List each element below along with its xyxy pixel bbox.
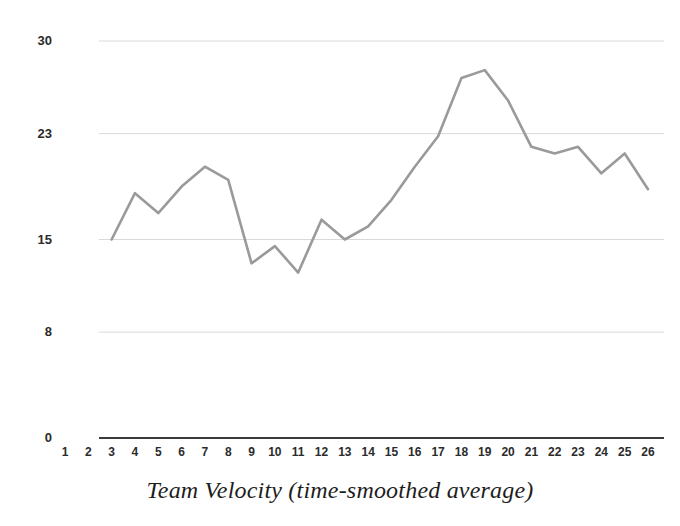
y-tick-label-30: 30: [6, 34, 52, 48]
y-tick-label-15: 15: [6, 233, 52, 247]
chart-title: Team Velocity (time-smoothed average): [0, 477, 680, 504]
chart-container: 30231580 1234567891011121314151617181920…: [0, 0, 680, 526]
x-axis: 1234567891011121314151617181920212223242…: [0, 445, 680, 465]
y-tick-label-23: 23: [6, 127, 52, 141]
y-tick-label-0: 0: [6, 431, 52, 445]
y-tick-label-8: 8: [6, 325, 52, 339]
gridlines: [99, 41, 664, 332]
x-tick-label-26: 26: [633, 445, 663, 460]
data-line-group: [112, 70, 648, 272]
data-series-line: [112, 70, 648, 272]
